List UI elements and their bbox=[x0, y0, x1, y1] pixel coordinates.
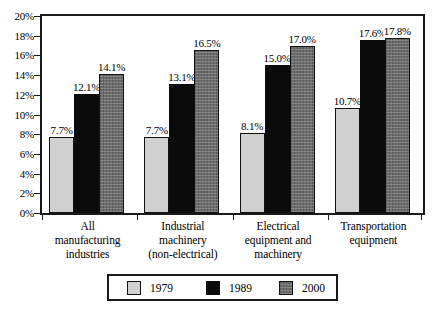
bar: 17.0% bbox=[290, 46, 315, 213]
legend-label: 1979 bbox=[150, 282, 173, 294]
bar-chart: 0%2%4%6%8%10%12%14%16%18%20% 7.7%12.1%14… bbox=[0, 0, 441, 317]
bar: 17.6% bbox=[360, 40, 385, 213]
y-tick-label: 2% bbox=[0, 188, 34, 199]
bar-value-label: 15.0% bbox=[263, 53, 290, 64]
legend-label: 2000 bbox=[302, 282, 325, 294]
bar-value-label: 17.6% bbox=[359, 28, 386, 39]
legend-swatch bbox=[206, 281, 220, 295]
y-tick-label: 10% bbox=[0, 110, 34, 121]
x-category-label-line: machinery bbox=[231, 247, 326, 261]
x-category-label-line: industries bbox=[40, 247, 135, 261]
bar-group: 7.7%13.1%16.5% bbox=[137, 16, 232, 213]
bar-value-label: 13.1% bbox=[168, 72, 195, 83]
x-category-label-line: equipment bbox=[326, 233, 421, 247]
y-tick-label: 4% bbox=[0, 169, 34, 180]
y-tick-label: 18% bbox=[0, 31, 34, 42]
bar-group: 7.7%12.1%14.1% bbox=[42, 16, 137, 213]
bar-value-label: 16.5% bbox=[193, 38, 220, 49]
bar: 7.7% bbox=[144, 137, 169, 213]
legend-label: 1989 bbox=[229, 282, 252, 294]
legend-item[interactable]: 2000 bbox=[279, 276, 325, 299]
x-category-label: Transportationequipment bbox=[326, 219, 421, 247]
bar-value-label: 7.7% bbox=[51, 125, 73, 136]
x-category-label-line: equipment and bbox=[231, 233, 326, 247]
x-category-label: Electricalequipment andmachinery bbox=[231, 219, 326, 261]
y-tick-label: 6% bbox=[0, 149, 34, 160]
bar-value-label: 7.7% bbox=[146, 125, 168, 136]
y-tick-label: 14% bbox=[0, 70, 34, 81]
bar: 10.7% bbox=[335, 108, 360, 213]
bar-value-label: 10.7% bbox=[334, 96, 361, 107]
bar-value-label: 14.1% bbox=[98, 62, 125, 73]
bars-layer: 7.7%12.1%14.1%7.7%13.1%16.5%8.1%15.0%17.… bbox=[42, 16, 423, 213]
legend-item[interactable]: 1989 bbox=[206, 276, 252, 299]
y-tick-label: 8% bbox=[0, 129, 34, 140]
bar: 15.0% bbox=[265, 65, 290, 213]
y-tick-label: 12% bbox=[0, 90, 34, 101]
x-category-label-line: All bbox=[40, 219, 135, 233]
bar: 13.1% bbox=[169, 84, 194, 213]
bar: 7.7% bbox=[49, 137, 74, 213]
x-axis-labels: AllmanufacturingindustriesIndustrialmach… bbox=[40, 219, 425, 271]
x-category-label-line: manufacturing bbox=[40, 233, 135, 247]
legend-swatch bbox=[127, 281, 141, 295]
bar: 12.1% bbox=[74, 94, 99, 213]
x-category-label-line: Transportation bbox=[326, 219, 421, 233]
y-tick-label: 16% bbox=[0, 50, 34, 61]
x-category-label-line: (non-electrical) bbox=[135, 247, 230, 261]
x-category-label: Industrialmachinery(non-electrical) bbox=[135, 219, 230, 261]
bar-group: 10.7%17.6%17.8% bbox=[328, 16, 423, 213]
y-tick-label: 20% bbox=[0, 11, 34, 22]
bar: 17.8% bbox=[385, 38, 410, 213]
bar-group: 8.1%15.0%17.0% bbox=[233, 16, 328, 213]
x-category-label: Allmanufacturingindustries bbox=[40, 219, 135, 261]
y-tick-label: 0% bbox=[0, 208, 34, 219]
y-axis: 0%2%4%6%8%10%12%14%16%18%20% bbox=[0, 14, 34, 215]
x-category-label-line: Electrical bbox=[231, 219, 326, 233]
bar: 14.1% bbox=[99, 74, 124, 213]
legend: 197919892000 bbox=[107, 274, 338, 301]
bar-value-label: 8.1% bbox=[241, 121, 263, 132]
legend-item[interactable]: 1979 bbox=[127, 276, 173, 299]
bar-value-label: 17.8% bbox=[384, 26, 411, 37]
bar: 16.5% bbox=[194, 50, 219, 213]
x-category-label-line: machinery bbox=[135, 233, 230, 247]
x-category-label-line: Industrial bbox=[135, 219, 230, 233]
legend-swatch bbox=[279, 281, 293, 295]
bar-value-label: 17.0% bbox=[288, 34, 315, 45]
bar-value-label: 12.1% bbox=[73, 82, 100, 93]
bar: 8.1% bbox=[240, 133, 265, 213]
